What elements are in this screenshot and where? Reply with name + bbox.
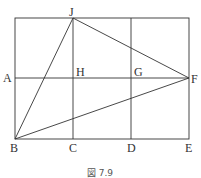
- label-g: G: [134, 65, 143, 79]
- geometry-diagram: J A H G F B C D E 図 7.9: [0, 0, 201, 178]
- label-j: J: [69, 5, 74, 19]
- line-b-f: [15, 78, 189, 139]
- label-a: A: [3, 71, 12, 85]
- line-b-j: [15, 18, 73, 139]
- figure-caption: 図 7.9: [87, 168, 113, 178]
- label-h: H: [76, 65, 85, 79]
- label-d: D: [127, 141, 136, 155]
- label-f: F: [191, 72, 198, 86]
- label-c: C: [69, 141, 77, 155]
- outer-rectangle: [15, 18, 189, 139]
- label-b: B: [10, 141, 18, 155]
- label-e: E: [185, 141, 192, 155]
